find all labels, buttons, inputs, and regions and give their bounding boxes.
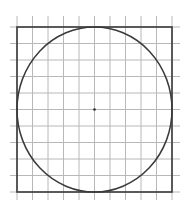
inscribed-circle-diagram [0, 0, 188, 212]
center-point [93, 108, 96, 111]
